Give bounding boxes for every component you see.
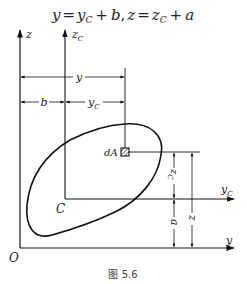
dim-a-label: a: [168, 219, 181, 226]
equation: y=yC+b,z=zC+a: [51, 6, 194, 25]
yc-axis-label: yC: [220, 183, 233, 198]
da-element: [121, 148, 129, 156]
zc-axis-label: zC: [71, 28, 84, 43]
figure-caption: 图 5.6: [108, 269, 137, 280]
area-outline: [27, 124, 162, 236]
dim-z-label: z: [186, 214, 199, 221]
z-axis-label: z: [25, 28, 32, 41]
y-axis-label: y: [225, 234, 233, 247]
dim-b-label: b: [40, 96, 47, 109]
centroid-label: C: [56, 202, 65, 216]
parallel-axis-diagram: y=yC+b,z=zC+a z y O zC yC C dA y b yC zC…: [0, 0, 247, 284]
da-label: dA: [104, 147, 118, 158]
dim-y-label: y: [75, 71, 83, 84]
origin-label: O: [9, 251, 19, 265]
